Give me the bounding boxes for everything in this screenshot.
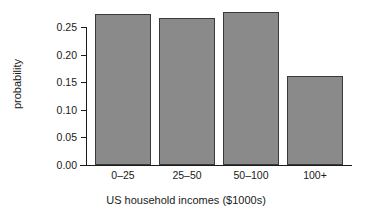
x-axis-title: US household incomes ($1000s) <box>0 194 372 206</box>
plot-area <box>88 0 350 165</box>
x-axis-line <box>80 165 352 166</box>
y-tick-mark <box>81 27 86 28</box>
bar-0 <box>95 14 151 165</box>
y-tick-label: 0.20 <box>37 50 77 61</box>
y-tick-label: 0.10 <box>37 105 77 116</box>
x-tick-label: 100+ <box>275 170 355 181</box>
bar-3 <box>287 76 343 165</box>
y-tick-label: 0.25 <box>37 22 77 33</box>
y-tick-mark <box>81 82 86 83</box>
y-tick-mark <box>81 110 86 111</box>
bar-chart: 0.000.050.100.150.200.25 0–2525–5050–100… <box>0 0 372 220</box>
y-tick-mark <box>81 55 86 56</box>
y-tick-label: 0.00 <box>37 160 77 171</box>
y-tick-mark <box>81 165 86 166</box>
y-tick-mark <box>81 137 86 138</box>
bar-2 <box>223 12 279 165</box>
y-tick-label: 0.05 <box>37 132 77 143</box>
y-axis-line <box>86 27 87 166</box>
bar-1 <box>159 18 215 165</box>
y-axis-title: probability <box>11 39 23 129</box>
y-tick-label: 0.15 <box>37 77 77 88</box>
